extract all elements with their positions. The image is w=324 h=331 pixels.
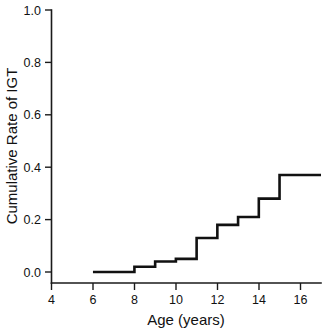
x-tick-label-6: 6 [90, 293, 97, 307]
y-tick-label-0.2: 0.2 [24, 213, 41, 227]
x-tick-marks [52, 283, 301, 290]
y-tick-marks [45, 10, 52, 272]
x-tick-label-8: 8 [131, 293, 138, 307]
y-tick-label-1.0: 1.0 [24, 4, 41, 18]
axes-group [52, 10, 322, 283]
cumulative-rate-step-line [93, 175, 321, 272]
y-axis-title: Cumulative Rate of IGT [3, 68, 20, 225]
y-tick-label-0.6: 0.6 [24, 108, 41, 122]
x-axis-title: Age (years) [147, 311, 225, 328]
y-tick-labels: 1.0 0.8 0.6 0.4 0.2 0.0 [24, 4, 41, 280]
x-tick-label-16: 16 [294, 293, 308, 307]
x-tick-label-14: 14 [252, 293, 266, 307]
figure-container: 1.0 0.8 0.6 0.4 0.2 0.0 4 6 8 10 12 14 1… [0, 0, 324, 331]
step-chart: 1.0 0.8 0.6 0.4 0.2 0.0 4 6 8 10 12 14 1… [0, 0, 324, 331]
x-tick-label-12: 12 [211, 293, 225, 307]
x-tick-label-10: 10 [169, 293, 183, 307]
y-tick-label-0.8: 0.8 [24, 56, 41, 70]
y-tick-label-0.4: 0.4 [24, 161, 41, 175]
x-tick-labels: 4 6 8 10 12 14 16 [48, 293, 307, 307]
x-tick-label-4: 4 [48, 293, 55, 307]
y-tick-label-0.0: 0.0 [24, 266, 41, 280]
